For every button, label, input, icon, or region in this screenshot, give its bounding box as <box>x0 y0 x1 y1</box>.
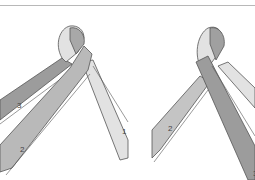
left-panel: 3 2 1 <box>0 26 128 175</box>
label-strand-3: 3 <box>17 101 22 110</box>
right-strand-2 <box>152 76 210 158</box>
braid-illustration: 3 2 1 2 3 <box>0 0 255 180</box>
label-strand-3-right: 3 <box>253 169 255 178</box>
label-strand-1: 1 <box>122 127 127 136</box>
label-strand-2-right: 2 <box>168 124 173 133</box>
label-strand-2: 2 <box>20 145 25 154</box>
right-panel: 2 3 <box>152 27 255 180</box>
